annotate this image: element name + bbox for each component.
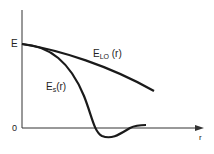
curve-es xyxy=(22,44,146,137)
x-label-r: r xyxy=(199,134,202,142)
label-es-main: E xyxy=(46,81,53,92)
label-es: Es(r) xyxy=(46,82,66,93)
curve-elo xyxy=(22,44,154,91)
x-axis-arrow-icon xyxy=(195,125,204,131)
label-elo-sub: LO xyxy=(100,53,109,60)
label-es-arg: (r) xyxy=(56,81,66,92)
y-label-e: E xyxy=(11,39,18,49)
label-elo-arg: (r) xyxy=(109,48,122,59)
diagram-canvas xyxy=(0,0,214,154)
label-elo-main: E xyxy=(93,48,100,59)
y-label-zero: 0 xyxy=(12,124,17,133)
label-elo: ELO (r) xyxy=(93,49,122,60)
